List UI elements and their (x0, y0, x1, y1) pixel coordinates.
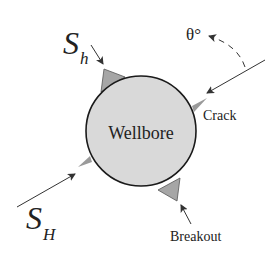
diagram-canvas: Wellbore Crack Breakout θ° S h S H (0, 0, 276, 264)
crack-bottom-left (78, 156, 92, 167)
theta-arc-arrow (209, 36, 245, 67)
theta-label: θ° (186, 25, 201, 44)
crack-label: Crack (203, 108, 236, 123)
sH-opposite-arrow (207, 60, 265, 93)
breakout-label: Breakout (170, 229, 221, 244)
breakout-arrow (181, 205, 191, 224)
wellbore-label: Wellbore (108, 123, 174, 143)
wellbore-diagram: Wellbore Crack Breakout θ° S h S H (0, 0, 276, 264)
sh-main: S (63, 25, 79, 61)
sh-arrow (91, 45, 103, 64)
sH-main: S (26, 200, 42, 236)
sh-sub: h (80, 49, 89, 68)
sh-label: S h (63, 25, 89, 68)
sH-label: S H (26, 200, 57, 244)
sH-sub: H (42, 225, 57, 244)
